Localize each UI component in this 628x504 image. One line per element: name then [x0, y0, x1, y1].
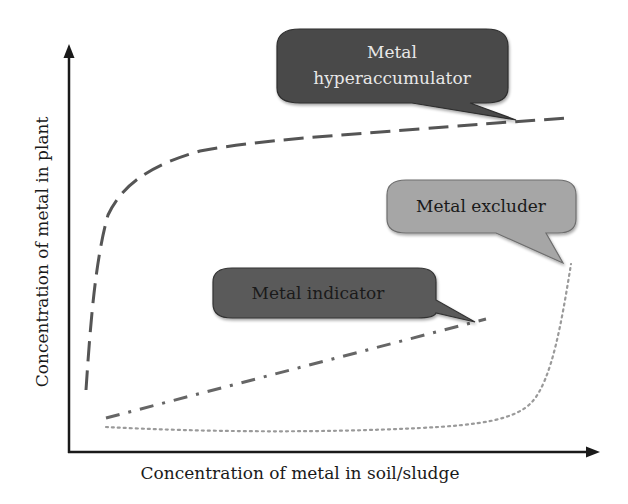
x-axis-arrow-icon [586, 447, 600, 458]
callout-indicator-label: Metal indicator [252, 283, 386, 303]
callout-excluder-label: Metal excluder [416, 196, 547, 216]
callout-hyperaccumulator-line2: hyperaccumulator [313, 68, 471, 88]
x-axis-label: Concentration of metal in soil/sludge [141, 463, 460, 483]
hyperaccumulator-curve [86, 118, 566, 390]
callout-excluder [387, 180, 576, 263]
metal-uptake-diagram: Concentration of metal in soil/sludge Co… [0, 0, 628, 504]
y-axis-label: Concentration of metal in plant [32, 117, 52, 388]
callout-excluder-bubble [387, 180, 576, 263]
y-axis-arrow-icon [64, 44, 75, 58]
callout-hyperaccumulator-line1: Metal [367, 42, 417, 62]
indicator-line [106, 319, 486, 418]
axes [64, 44, 601, 458]
